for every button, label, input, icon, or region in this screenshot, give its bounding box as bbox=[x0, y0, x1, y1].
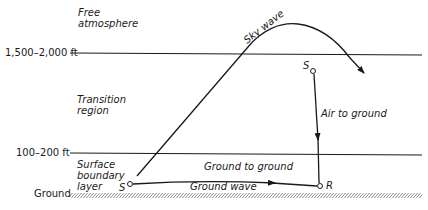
sky-wave-label: Sky wave bbox=[241, 8, 285, 46]
source-air-point bbox=[311, 69, 316, 74]
air-to-ground-path-lower bbox=[318, 138, 319, 183]
source-ground-label: S bbox=[119, 182, 125, 193]
upper-boundary-line bbox=[70, 53, 422, 55]
upper-height-label: 1,500–2,000 ft bbox=[5, 47, 78, 59]
receiver-point bbox=[318, 184, 323, 189]
source-ground-point bbox=[128, 182, 133, 187]
transition-region-label: Transition region bbox=[77, 94, 126, 116]
transition-region-line1: Transition bbox=[77, 94, 126, 105]
surface-line1: Surface bbox=[77, 159, 125, 170]
propagation-diagram: Sky wave bbox=[0, 0, 428, 210]
lower-height-label: 100–200 ft bbox=[16, 147, 70, 159]
transition-region-line2: region bbox=[77, 105, 126, 116]
receiver-label: R bbox=[326, 180, 333, 191]
ground-wave-label: Ground wave bbox=[190, 181, 257, 192]
source-air-label: S bbox=[303, 60, 309, 71]
ground-hatching bbox=[70, 193, 422, 198]
air-to-ground-path bbox=[314, 74, 318, 140]
surface-boundary-layer-label: Surface boundary layer bbox=[77, 159, 125, 192]
ground-to-ground-label: Ground to ground bbox=[204, 161, 293, 172]
surface-line2: boundary bbox=[77, 170, 125, 181]
ground-label: Ground bbox=[34, 188, 71, 200]
air-to-ground-label: Air to ground bbox=[321, 108, 387, 119]
lower-boundary-line bbox=[70, 153, 422, 155]
surface-line3: layer bbox=[77, 181, 125, 192]
ground-wave-path-end bbox=[272, 183, 317, 186]
free-atmosphere-label: Free atmosphere bbox=[78, 7, 138, 29]
free-atmosphere-line1: Free bbox=[78, 7, 138, 18]
free-atmosphere-line2: atmosphere bbox=[78, 18, 138, 29]
